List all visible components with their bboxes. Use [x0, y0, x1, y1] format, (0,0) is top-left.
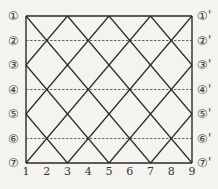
row-label-left: ⑥ [8, 132, 19, 146]
row-label-left: ⑤ [8, 107, 19, 121]
row-label-right: ③' [197, 58, 211, 72]
row-label-left: ⑦ [8, 156, 19, 170]
column-labels: 123456789 [23, 165, 196, 178]
column-label: 8 [168, 165, 175, 178]
column-label: 9 [189, 165, 196, 178]
row-label-right: ⑦' [197, 156, 211, 170]
row-label-right: ④' [197, 83, 211, 97]
row-label-left: ① [8, 9, 19, 23]
column-label: 1 [23, 165, 30, 178]
row-labels-left: ①②③④⑤⑥⑦ [8, 9, 19, 170]
column-label: 4 [85, 165, 92, 178]
column-label: 2 [43, 165, 50, 178]
column-label: 6 [126, 165, 133, 178]
column-label: 7 [147, 165, 154, 178]
column-label: 3 [64, 165, 71, 178]
row-label-left: ② [8, 34, 19, 48]
diamond-grid-diagram: ①②③④⑤⑥⑦ ①'②'③'④'⑤'⑥'⑦' 123456789 [0, 0, 218, 189]
row-label-right: ②' [197, 34, 211, 48]
row-label-left: ④ [8, 83, 19, 97]
row-label-right: ⑥' [197, 132, 211, 146]
dashed-rows [26, 41, 192, 139]
row-label-right: ⑤' [197, 107, 211, 121]
column-label: 5 [106, 165, 113, 178]
row-label-left: ③ [8, 58, 19, 72]
row-labels-right: ①'②'③'④'⑤'⑥'⑦' [197, 9, 211, 170]
row-label-right: ①' [197, 9, 211, 23]
